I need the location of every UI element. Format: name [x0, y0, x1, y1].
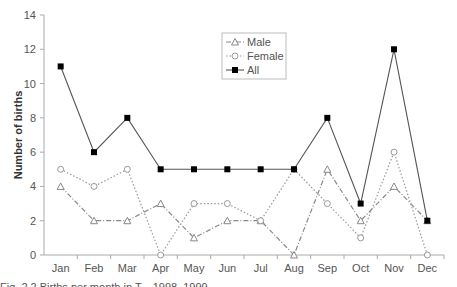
series-female: [58, 149, 431, 258]
square-marker: [291, 166, 297, 172]
x-tick-label: Dec: [418, 262, 438, 274]
triangle-marker: [391, 183, 398, 190]
y-tick-label: 0: [30, 249, 36, 261]
circle-marker: [91, 183, 97, 189]
square-marker: [424, 218, 430, 224]
circle-marker: [124, 166, 130, 172]
square-marker: [58, 63, 64, 69]
triangle-marker: [224, 217, 231, 224]
y-axis-title: Number of births: [12, 91, 24, 180]
triangle-marker: [124, 217, 131, 224]
circle-marker: [224, 201, 230, 207]
circle-marker: [358, 235, 364, 241]
y-tick-label: 12: [24, 43, 36, 55]
y-tick-label: 8: [30, 112, 36, 124]
circle-marker: [324, 201, 330, 207]
square-marker: [391, 46, 397, 52]
circle-marker: [232, 53, 238, 59]
square-marker: [191, 166, 197, 172]
x-tick-label: Sep: [318, 262, 338, 274]
square-marker: [224, 166, 230, 172]
square-marker: [358, 201, 364, 207]
x-tick-label: Aug: [284, 262, 304, 274]
y-tick-label: 4: [30, 180, 36, 192]
y-tick-label: 2: [30, 215, 36, 227]
x-tick-label: Apr: [152, 262, 169, 274]
x-tick-label: Jan: [52, 262, 70, 274]
y-tick-label: 6: [30, 146, 36, 158]
square-marker: [258, 166, 264, 172]
x-tick-label: Feb: [85, 262, 104, 274]
legend-label: Male: [247, 36, 271, 48]
line-chart: 02468101214JanFebMarAprMayJunJulAugSepOc…: [0, 0, 457, 287]
triangle-marker: [157, 200, 164, 207]
legend: MaleFemaleAll: [222, 33, 286, 79]
circle-marker: [258, 218, 264, 224]
circle-marker: [391, 149, 397, 155]
figure-caption: Fig. 2.2 Births per month in T... 1998–1…: [0, 280, 208, 287]
circle-marker: [158, 252, 164, 258]
legend-label: Female: [247, 50, 284, 62]
y-tick-label: 14: [24, 9, 36, 21]
triangle-marker: [57, 183, 64, 190]
series-line: [61, 152, 428, 255]
x-tick-label: Nov: [384, 262, 404, 274]
circle-marker: [424, 252, 430, 258]
square-marker: [324, 115, 330, 121]
square-marker: [124, 115, 130, 121]
x-tick-label: Mar: [118, 262, 137, 274]
circle-marker: [58, 166, 64, 172]
x-tick-label: Jun: [218, 262, 236, 274]
square-marker: [91, 149, 97, 155]
triangle-marker: [324, 166, 331, 173]
y-tick-label: 10: [24, 78, 36, 90]
square-marker: [232, 67, 238, 73]
x-tick-label: May: [184, 262, 205, 274]
circle-marker: [191, 201, 197, 207]
x-tick-label: Jul: [254, 262, 268, 274]
square-marker: [158, 166, 164, 172]
legend-label: All: [247, 64, 259, 76]
x-tick-label: Oct: [352, 262, 369, 274]
